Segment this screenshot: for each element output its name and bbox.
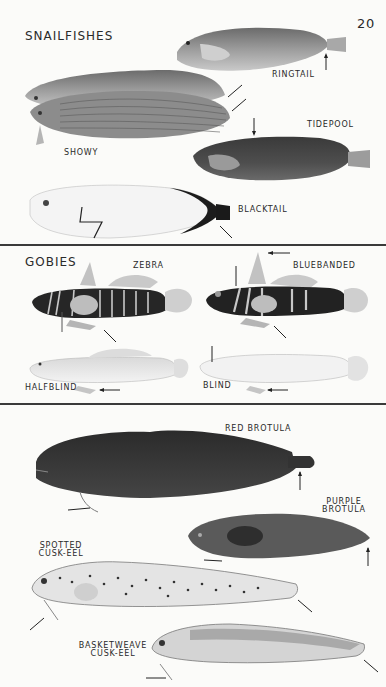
species-label-zebra: ZEBRA <box>133 262 164 270</box>
section-title-gobies: GOBIES <box>25 256 77 269</box>
species-label-line: BROTULA <box>322 506 366 514</box>
species-label-basketweave-cusk-eel: BASKETWEAVE CUSK-EEL <box>76 642 150 659</box>
fish-illustrations <box>0 0 386 687</box>
basketweave-cusk-eel-illustration <box>146 624 378 680</box>
species-label-purple-brotula: PURPLE BROTULA <box>322 498 366 515</box>
section-title-snailfishes: SNAILFISHES <box>25 30 113 43</box>
species-label-ringtail: RINGTAIL <box>272 71 315 79</box>
species-label-red-brotula: RED BROTULA <box>225 425 291 433</box>
species-label-line: CUSK-EEL <box>36 550 86 558</box>
species-label-blind: BLIND <box>203 382 231 390</box>
showy-illustration <box>25 70 246 145</box>
blacktail-illustration <box>30 185 232 238</box>
section-divider <box>0 403 386 405</box>
section-divider <box>0 244 386 246</box>
species-label-tidepool: TIDEPOOL <box>307 121 354 129</box>
page-number: 20 <box>357 17 375 31</box>
species-label-line: CUSK-EEL <box>76 650 150 658</box>
species-label-bluebanded: BLUEBANDED <box>293 262 356 270</box>
species-label-blacktail: BLACKTAIL <box>238 206 287 214</box>
red-brotula-illustration <box>36 431 315 512</box>
ringtail-illustration <box>177 28 346 71</box>
species-label-spotted-cusk-eel: SPOTTED CUSK-EEL <box>36 542 86 559</box>
field-guide-page: 20 SNAILFISHES RINGTAIL SHOWY TIDEPOOL B… <box>0 0 386 687</box>
zebra-goby-illustration <box>32 262 192 342</box>
spotted-cusk-eel-illustration <box>30 562 312 630</box>
purple-brotula-illustration <box>188 514 370 566</box>
species-label-halfblind: HALFBLIND <box>25 384 77 392</box>
species-label-showy: SHOWY <box>64 149 98 157</box>
